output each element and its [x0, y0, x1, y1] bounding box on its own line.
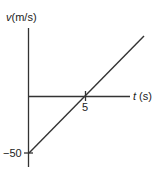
x-axis-label: t (s) — [133, 90, 152, 102]
velocity-time-graph: v(m/s) t (s) 5 −50 — [0, 0, 159, 170]
y-tick-label-neg50: −50 — [3, 147, 22, 159]
y-axis-label: v(m/s) — [6, 11, 37, 23]
x-tick-label-5: 5 — [82, 101, 88, 113]
velocity-line — [29, 36, 144, 153]
